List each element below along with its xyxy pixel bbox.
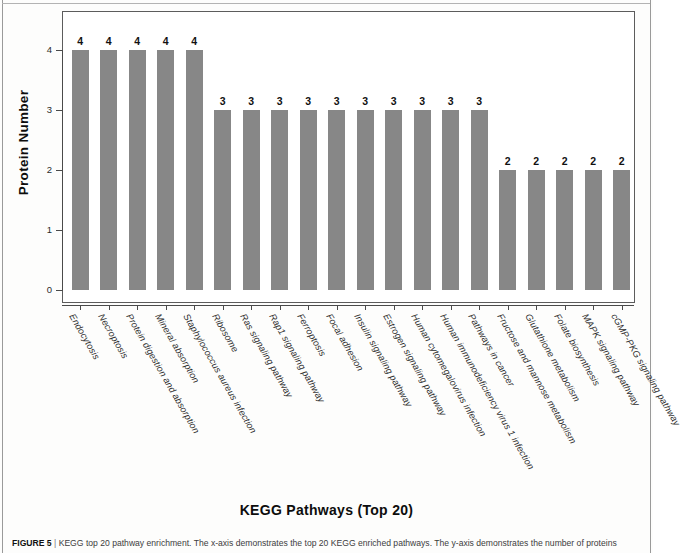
bar-value-label: 2 bbox=[551, 155, 580, 167]
bar[interactable] bbox=[385, 110, 402, 290]
bar-slot: 3 bbox=[351, 50, 380, 290]
bar[interactable] bbox=[414, 110, 431, 290]
bar-value-label: 4 bbox=[152, 35, 181, 47]
figure-caption: FIGURE 5 | KEGG top 20 pathway enrichmen… bbox=[12, 538, 644, 549]
x-axis-tick bbox=[508, 305, 509, 310]
bar-slot: 4 bbox=[123, 50, 152, 290]
bar[interactable] bbox=[585, 170, 602, 290]
bar[interactable] bbox=[100, 50, 117, 290]
x-axis-tick bbox=[536, 305, 537, 310]
x-axis-tick-label: Endocytosis bbox=[68, 312, 102, 361]
y-axis-title: Protein Number bbox=[16, 48, 31, 238]
bar-slot: 2 bbox=[551, 50, 580, 290]
y-axis-tick-label: 4 bbox=[30, 44, 52, 55]
bar-slot: 4 bbox=[66, 50, 95, 290]
y-axis-tick-label: 1 bbox=[30, 224, 52, 235]
bar[interactable] bbox=[129, 50, 146, 290]
x-axis-tick bbox=[593, 305, 594, 310]
bar-value-label: 4 bbox=[123, 35, 152, 47]
bar-value-label: 3 bbox=[380, 95, 409, 107]
y-axis-tick bbox=[56, 170, 62, 171]
x-axis-tick bbox=[422, 305, 423, 310]
y-axis-tick bbox=[56, 50, 62, 51]
x-axis-tick bbox=[479, 305, 480, 310]
bar-slot: 3 bbox=[209, 50, 238, 290]
bar[interactable] bbox=[357, 110, 374, 290]
bar-slot: 3 bbox=[408, 50, 437, 290]
bar-value-label: 3 bbox=[323, 95, 352, 107]
bar[interactable] bbox=[300, 110, 317, 290]
y-axis-tick-label: 3 bbox=[30, 104, 52, 115]
x-axis-tick-label: Insulin signaling pathway bbox=[353, 312, 415, 409]
bar[interactable] bbox=[442, 110, 459, 290]
bar[interactable] bbox=[157, 50, 174, 290]
x-axis-tick-label: Ras signaling pathway bbox=[239, 312, 295, 399]
x-axis-tick bbox=[365, 305, 366, 310]
bar-slot: 3 bbox=[437, 50, 466, 290]
page-border-left bbox=[2, 0, 3, 553]
y-axis-tick bbox=[56, 110, 62, 111]
bar-value-label: 3 bbox=[351, 95, 380, 107]
x-axis-tick bbox=[280, 305, 281, 310]
bar-value-label: 3 bbox=[294, 95, 323, 107]
bar[interactable] bbox=[186, 50, 203, 290]
bar-slot: 3 bbox=[294, 50, 323, 290]
x-axis-tick bbox=[223, 305, 224, 310]
bar[interactable] bbox=[499, 170, 516, 290]
bar-value-label: 3 bbox=[237, 95, 266, 107]
figure-caption-separator: | bbox=[54, 538, 56, 548]
x-axis-tick-label: Glutathione metabolism bbox=[524, 312, 583, 403]
bar-value-label: 2 bbox=[494, 155, 523, 167]
bar-slot: 3 bbox=[323, 50, 352, 290]
bar-value-label: 4 bbox=[180, 35, 209, 47]
x-axis-tick bbox=[622, 305, 623, 310]
x-axis-tick bbox=[394, 305, 395, 310]
bar-slot: 2 bbox=[579, 50, 608, 290]
bar[interactable] bbox=[72, 50, 89, 290]
bar[interactable] bbox=[556, 170, 573, 290]
x-axis-tick bbox=[251, 305, 252, 310]
bar[interactable] bbox=[471, 110, 488, 290]
bar[interactable] bbox=[243, 110, 260, 290]
x-axis-tick bbox=[565, 305, 566, 310]
bar[interactable] bbox=[328, 110, 345, 290]
x-axis-tick bbox=[194, 305, 195, 310]
y-axis-tick bbox=[56, 230, 62, 231]
page-border-top bbox=[2, 3, 650, 4]
x-axis-tick bbox=[166, 305, 167, 310]
figure-caption-text: KEGG top 20 pathway enrichment. The x-ax… bbox=[59, 538, 617, 548]
x-axis-line bbox=[62, 305, 634, 306]
x-axis-tick bbox=[80, 305, 81, 310]
x-axis-tick bbox=[308, 305, 309, 310]
x-axis-tick bbox=[137, 305, 138, 310]
x-axis-tick-label: Ribosome bbox=[210, 312, 240, 354]
page-border-right bbox=[650, 0, 651, 553]
bar[interactable] bbox=[528, 170, 545, 290]
bar-value-label: 3 bbox=[266, 95, 295, 107]
bar-value-label: 2 bbox=[608, 155, 637, 167]
bar-value-label: 4 bbox=[95, 35, 124, 47]
y-axis-tick-label: 2 bbox=[30, 164, 52, 175]
bar-value-label: 3 bbox=[437, 95, 466, 107]
bar-slot: 4 bbox=[180, 50, 209, 290]
bar-value-label: 3 bbox=[465, 95, 494, 107]
bar-slot: 4 bbox=[152, 50, 181, 290]
y-axis-tick-label: 0 bbox=[30, 284, 52, 295]
bar-value-label: 4 bbox=[66, 35, 95, 47]
x-axis-tick bbox=[451, 305, 452, 310]
y-axis-tick bbox=[56, 290, 62, 291]
bar-value-label: 3 bbox=[209, 95, 238, 107]
x-axis-tick-label: MAPK signaling pathway bbox=[581, 312, 642, 408]
x-axis-tick bbox=[337, 305, 338, 310]
bar-value-label: 2 bbox=[579, 155, 608, 167]
bar[interactable] bbox=[613, 170, 630, 290]
bar-slot: 3 bbox=[380, 50, 409, 290]
x-axis-title: KEGG Pathways (Top 20) bbox=[0, 502, 653, 518]
x-axis-tick-label: Ferroptosis bbox=[296, 312, 328, 358]
bar-value-label: 3 bbox=[408, 95, 437, 107]
bar-slot: 2 bbox=[522, 50, 551, 290]
bar[interactable] bbox=[271, 110, 288, 290]
bar-plot-area: 44444333333333322222 bbox=[63, 50, 634, 290]
bar[interactable] bbox=[214, 110, 231, 290]
